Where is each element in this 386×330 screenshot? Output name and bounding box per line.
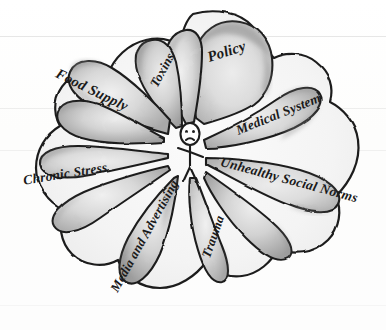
diagram-canvas: Policy Toxins Food Supply Chronic Stress… <box>0 0 386 330</box>
figure-eye-left <box>185 130 188 133</box>
petal-diagram-illustration: Policy Toxins Food Supply Chronic Stress… <box>0 0 386 330</box>
figure-eye-right <box>192 130 195 133</box>
figure-head <box>181 123 200 145</box>
